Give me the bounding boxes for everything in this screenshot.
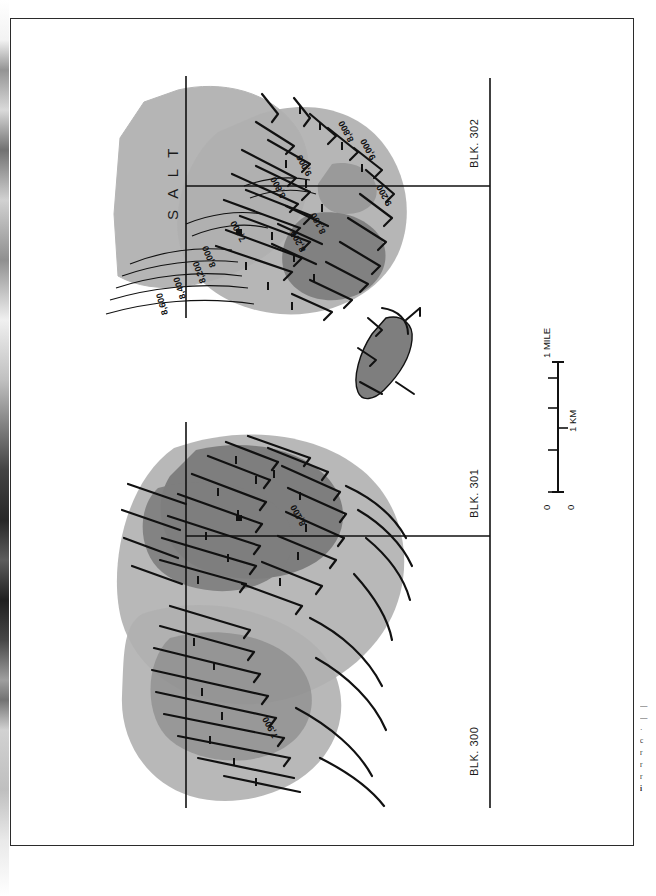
block-label-blk-300: BLK. 300 (468, 727, 480, 776)
geological-structure-map-figure: S A L T 7,900 8,000 8,200 8,400 8,600 8,… (10, 18, 634, 846)
caption-fragment: — — · c r r r i (640, 700, 656, 890)
map-canvas: S A L T 7,900 8,000 8,200 8,400 8,600 8,… (10, 18, 634, 846)
caption-line: r (640, 771, 656, 783)
well-symbol-southwest (236, 515, 242, 521)
caption-line: r (640, 759, 656, 771)
scale-label-zero-top: 0 (541, 505, 552, 510)
caption-line: c (640, 735, 656, 747)
caption-line: — (640, 712, 656, 724)
salt-label: S A L T (164, 144, 181, 220)
contour-label-8600: 8,600 (154, 292, 170, 316)
caption-line: — (640, 700, 656, 712)
block-label-blk-302: BLK. 302 (468, 119, 480, 168)
scale-label-1-km: 1 KM (567, 410, 578, 432)
scale-bar (548, 362, 568, 492)
scale-label-zero-bottom: 0 (565, 505, 576, 510)
caption-line: · (640, 724, 656, 736)
block-label-blk-301: BLK. 301 (468, 469, 480, 518)
scan-edge-artifact (0, 0, 9, 896)
caption-line: i (640, 783, 656, 795)
scale-label-1-mile: 1 MILE (541, 328, 552, 358)
isolated-fault-block (356, 308, 420, 399)
caption-line: r (640, 747, 656, 759)
